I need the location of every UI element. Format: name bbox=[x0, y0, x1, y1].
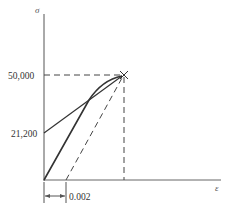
stress-strain-curve bbox=[44, 76, 122, 180]
peak-stress-label: 50,000 bbox=[8, 71, 34, 81]
arrow-left-icon bbox=[45, 194, 50, 198]
x-axis-label: ε bbox=[215, 183, 219, 193]
y-axis-label: σ bbox=[35, 5, 40, 15]
intercept-stress-label: 21,200 bbox=[11, 129, 37, 139]
secant-line bbox=[44, 76, 122, 133]
arrow-right-icon bbox=[60, 194, 65, 198]
stress-strain-diagram: σ ε 50,000 21,200 0.002 bbox=[0, 0, 233, 215]
offset-strain-label: 0.002 bbox=[69, 192, 91, 202]
